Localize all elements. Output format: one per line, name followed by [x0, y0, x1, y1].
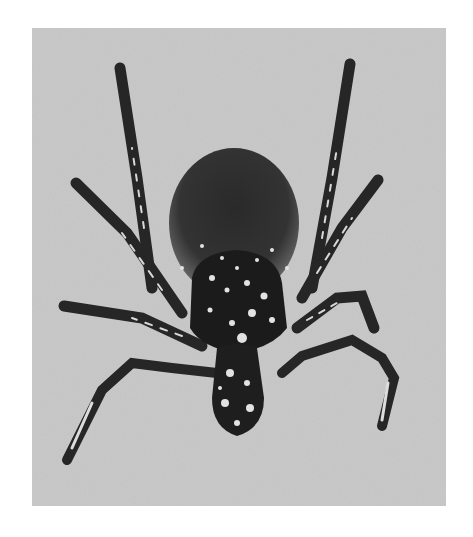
tick-illustration — [32, 28, 446, 506]
tick-photograph: Grayscale photograph of a tick viewed fr… — [32, 28, 446, 506]
